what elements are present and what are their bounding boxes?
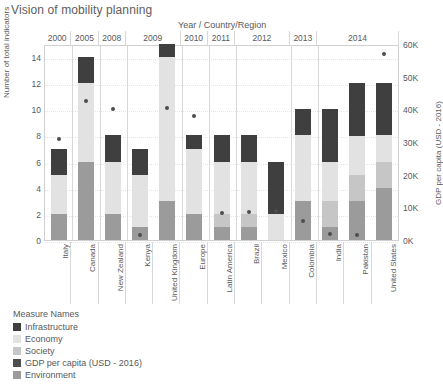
category-cell-brazil[interactable]: Brazil	[235, 242, 262, 304]
category-cell-pakistan[interactable]: Pakistan	[344, 242, 371, 304]
bar-segment-environment[interactable]	[78, 162, 94, 240]
bar-segment-infrastructure[interactable]	[295, 109, 311, 135]
bar-slot-united-kingdom[interactable]	[154, 46, 181, 240]
bar-slot-new-zealand[interactable]	[99, 46, 126, 240]
bar-segment-environment[interactable]	[105, 214, 121, 240]
bar-segment-infrastructure[interactable]	[105, 135, 121, 161]
stacked-bar[interactable]	[268, 162, 284, 240]
bar-segment-environment[interactable]	[241, 227, 257, 240]
bar-segment-infrastructure[interactable]	[268, 162, 284, 214]
bar-slot-europe[interactable]	[181, 46, 208, 240]
year-label: 2013	[293, 33, 312, 43]
stacked-bar[interactable]	[132, 149, 148, 240]
gdp-marker[interactable]	[111, 107, 115, 111]
category-label: New Zealand	[116, 244, 125, 291]
legend-item-infrastructure[interactable]: Infrastructure	[13, 321, 142, 333]
bar-segment-infrastructure[interactable]	[241, 135, 257, 161]
gdp-marker[interactable]	[165, 106, 169, 110]
gdp-marker[interactable]	[301, 219, 305, 223]
bar-slot-india[interactable]	[317, 46, 344, 240]
bar-segment-environment[interactable]	[376, 188, 392, 240]
bar-segment-economy[interactable]	[214, 162, 230, 214]
bar-segment-society[interactable]	[349, 175, 365, 201]
legend-label: Environment	[25, 370, 76, 380]
bar-segment-environment[interactable]	[186, 214, 202, 240]
stacked-bar[interactable]	[349, 83, 365, 240]
gdp-marker[interactable]	[192, 114, 196, 118]
bar-slot-italy[interactable]	[45, 46, 72, 240]
category-cell-canada[interactable]: Canada	[71, 242, 98, 304]
bar-segment-infrastructure[interactable]	[186, 135, 202, 148]
gdp-marker[interactable]	[84, 99, 88, 103]
legend-item-environment[interactable]: Environment	[13, 369, 142, 381]
bar-segment-infrastructure[interactable]	[132, 149, 148, 175]
bar-slot-brazil[interactable]	[235, 46, 262, 240]
category-cell-united-kingdom[interactable]: United Kingdom	[153, 242, 180, 304]
bar-segment-society[interactable]	[322, 201, 338, 227]
stacked-bar[interactable]	[214, 135, 230, 240]
bar-segment-society[interactable]	[376, 162, 392, 188]
legend-item-society[interactable]: Society	[13, 345, 142, 357]
category-cell-latin-america[interactable]: Latin America	[208, 242, 235, 304]
bar-segment-infrastructure[interactable]	[322, 109, 338, 161]
bar-segment-economy[interactable]	[241, 162, 257, 214]
left-tick-6: 6	[36, 158, 41, 168]
gdp-marker[interactable]	[57, 137, 61, 141]
bar-segment-infrastructure[interactable]	[159, 44, 175, 57]
bar-slot-kenya[interactable]	[126, 46, 153, 240]
bar-slot-canada[interactable]	[72, 46, 99, 240]
axis-header-caption: Year / Country/Region	[178, 20, 266, 30]
bar-segment-economy[interactable]	[295, 135, 311, 200]
bar-slot-colombia[interactable]	[289, 46, 316, 240]
stacked-bar[interactable]	[105, 135, 121, 240]
legend-item-gdp-per-capita-usd-2016[interactable]: GDP per capita (USD - 2016)	[13, 357, 142, 369]
bar-segment-infrastructure[interactable]	[214, 135, 230, 161]
legend-item-economy[interactable]: Economy	[13, 333, 142, 345]
category-cell-italy[interactable]: Italy	[44, 242, 71, 304]
bar-segment-economy[interactable]	[105, 162, 121, 214]
bar-slot-pakistan[interactable]	[344, 46, 371, 240]
bar-segment-economy[interactable]	[376, 135, 392, 161]
category-cell-kenya[interactable]: Kenya	[126, 242, 153, 304]
bar-segment-economy[interactable]	[159, 57, 175, 201]
bar-slot-united-states[interactable]	[371, 46, 398, 240]
stacked-bar[interactable]	[51, 149, 67, 240]
right-tick-20K: 20K	[403, 171, 418, 181]
bar-slot-mexico[interactable]	[262, 46, 289, 240]
year-header-2008: 2008	[99, 31, 126, 45]
category-cell-europe[interactable]: Europe	[180, 242, 207, 304]
stacked-bar[interactable]	[241, 135, 257, 240]
bar-segment-economy[interactable]	[349, 136, 365, 175]
gdp-marker[interactable]	[382, 52, 386, 56]
stacked-bar[interactable]	[322, 109, 338, 240]
legend-swatch-icon	[13, 347, 21, 355]
bar-segment-economy[interactable]	[322, 162, 338, 201]
bar-segment-society[interactable]	[241, 214, 257, 227]
stacked-bar[interactable]	[78, 57, 94, 240]
left-tick-4: 4	[36, 184, 41, 194]
bar-segment-economy[interactable]	[51, 175, 67, 214]
stacked-bar[interactable]	[159, 44, 175, 240]
category-cell-mexico[interactable]: Mexico	[262, 242, 289, 304]
bar-segment-environment[interactable]	[159, 201, 175, 240]
bar-segment-infrastructure[interactable]	[376, 83, 392, 135]
bar-segment-society[interactable]	[214, 214, 230, 227]
bar-segment-economy[interactable]	[78, 83, 94, 161]
stacked-bar[interactable]	[376, 83, 392, 240]
bar-segment-infrastructure[interactable]	[349, 83, 365, 135]
gdp-marker[interactable]	[247, 210, 251, 214]
bar-slot-latin-america[interactable]	[208, 46, 235, 240]
bar-segment-economy[interactable]	[268, 214, 284, 240]
bar-segment-economy[interactable]	[186, 149, 202, 214]
bar-segment-environment[interactable]	[214, 227, 230, 240]
bar-segment-economy[interactable]	[132, 175, 148, 227]
bar-segment-infrastructure[interactable]	[51, 149, 67, 175]
bar-segment-infrastructure[interactable]	[78, 57, 94, 83]
bar-segment-environment[interactable]	[51, 214, 67, 240]
gdp-marker[interactable]	[220, 211, 224, 215]
category-cell-colombia[interactable]: Colombia	[290, 242, 317, 304]
category-cell-united-states[interactable]: United States	[372, 242, 399, 304]
category-cell-india[interactable]: India	[317, 242, 344, 304]
stacked-bar[interactable]	[186, 135, 202, 240]
category-cell-new-zealand[interactable]: New Zealand	[99, 242, 126, 304]
